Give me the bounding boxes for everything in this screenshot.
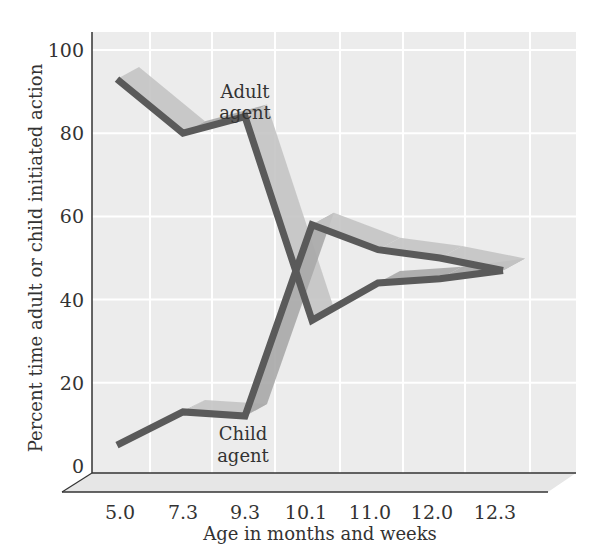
svg-text:agent: agent — [219, 102, 271, 123]
svg-text:Child: Child — [219, 423, 267, 444]
y-tick-label: 100 — [48, 39, 84, 61]
y-tick-label: 20 — [60, 372, 84, 394]
x-tick-label: 11.0 — [349, 501, 391, 523]
y-tick-labels: 020406080100 — [48, 39, 84, 477]
y-tick-label: 0 — [72, 455, 84, 477]
adult-agent-annotation: Adult agent — [219, 81, 271, 123]
x-tick-label: 10.1 — [285, 501, 327, 523]
x-tick-label: 12.3 — [474, 501, 516, 523]
y-tick-label: 80 — [60, 122, 84, 144]
svg-text:agent: agent — [217, 445, 269, 466]
x-tick-labels: 5.07.39.310.111.012.012.3 — [105, 501, 516, 523]
line-chart: 020406080100 5.07.39.310.111.012.012.3 A… — [0, 0, 604, 556]
svg-text:Adult: Adult — [219, 81, 270, 102]
child-agent-annotation: Child agent — [217, 423, 269, 466]
x-tick-label: 9.3 — [230, 501, 260, 523]
x-tick-label: 12.0 — [411, 501, 453, 523]
y-tick-label: 40 — [60, 289, 84, 311]
x-axis-label: Age in months and weeks — [202, 523, 437, 544]
x-tick-label: 5.0 — [105, 501, 135, 523]
x-tick-label: 7.3 — [168, 501, 198, 523]
y-tick-label: 60 — [60, 205, 84, 227]
y-axis-label: Percent time adult or child initiated ac… — [25, 63, 46, 452]
chart-floor — [62, 473, 576, 492]
